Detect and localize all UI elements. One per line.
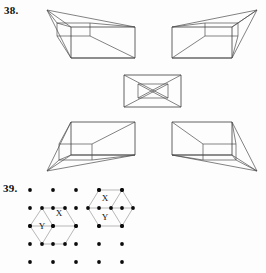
figure-vertex-dot	[86, 206, 90, 210]
grid-dot	[51, 206, 55, 210]
grid-dot	[97, 242, 101, 246]
grid-dot	[74, 188, 78, 192]
figure-vertex-dot	[131, 206, 135, 210]
grid-dot	[28, 188, 32, 192]
figure-vertex-dot	[63, 206, 67, 210]
figure-vertex-dot	[109, 206, 113, 210]
figure-vertex-dot	[63, 242, 67, 246]
figure-vertex-dot	[97, 224, 101, 228]
grid-dot	[97, 206, 101, 210]
question-38-figures: X Y X Y	[0, 0, 266, 273]
grid-dot	[51, 188, 55, 192]
grid-dot	[28, 206, 32, 210]
figure-center-box	[124, 75, 181, 107]
grid-dot	[51, 242, 55, 246]
figure-vertex-dot	[51, 224, 55, 228]
grid-dot	[74, 242, 78, 246]
figure-vertex-dot	[97, 188, 101, 192]
figure-vertex-dot	[40, 206, 44, 210]
grid-dot	[74, 206, 78, 210]
figure-vertex-dot	[40, 242, 44, 246]
left-figure-label-y: Y	[39, 221, 46, 231]
left-figure-label-x: X	[56, 208, 63, 218]
question-39-figures: X Y X Y	[28, 188, 135, 264]
figure-vertex-dot	[28, 224, 32, 228]
figure-top-left-box	[47, 10, 135, 58]
figure-top-right-box	[172, 10, 257, 58]
grid-dot	[28, 242, 32, 246]
grid-dot	[120, 260, 124, 264]
grid-dot	[28, 260, 32, 264]
figure-bottom-right-box	[172, 122, 257, 171]
right-figure-label-x: X	[102, 193, 109, 203]
figure-vertex-dot	[74, 224, 78, 228]
figure-vertex-dot	[120, 188, 124, 192]
grid-dot	[51, 260, 55, 264]
grid-dot	[120, 242, 124, 246]
right-figure-label-y: Y	[102, 212, 109, 222]
figure-bottom-left-box	[47, 122, 135, 171]
scanned-page: 38. 39.	[0, 0, 266, 273]
grid-dot	[97, 260, 101, 264]
grid-dot	[120, 206, 124, 210]
figure-vertex-dot	[120, 224, 124, 228]
grid-dot	[74, 260, 78, 264]
